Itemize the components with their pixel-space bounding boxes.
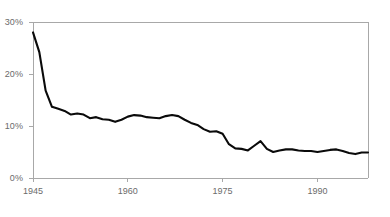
y-tick-label: 0%	[0, 173, 23, 183]
y-axis-ticks	[29, 22, 33, 178]
plot-frame	[33, 22, 368, 178]
x-axis-ticks	[33, 178, 317, 182]
data-series-group	[33, 32, 368, 154]
y-tick-label: 30%	[0, 17, 23, 27]
y-tick-label: 10%	[0, 121, 23, 131]
line-chart-plot	[0, 0, 390, 217]
x-tick-label: 1960	[108, 186, 148, 196]
x-tick-label: 1975	[203, 186, 243, 196]
data-series-line	[33, 32, 368, 154]
y-tick-label: 20%	[0, 69, 23, 79]
chart-figure: 0%10%20%30% 1945196019751990	[0, 0, 390, 217]
x-tick-label: 1990	[297, 186, 337, 196]
x-tick-label: 1945	[13, 186, 53, 196]
